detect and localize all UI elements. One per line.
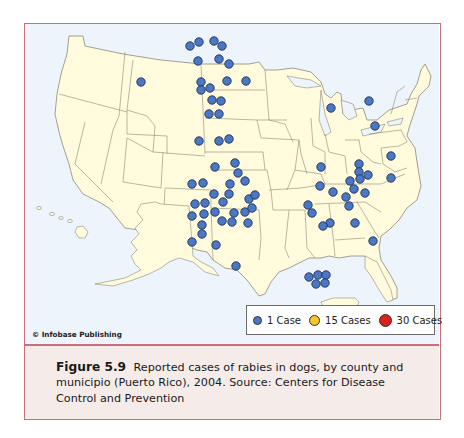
caption-area: Figure 5.9 Reported cases of rabies in d… [25,346,439,419]
case-dot [201,199,209,207]
case-dot [199,179,207,187]
case-dot [355,160,363,168]
legend-item-15-cases: 15 Cases [309,315,371,326]
case-dot [226,180,234,188]
case-dot [195,38,203,46]
case-dot [186,42,194,50]
case-dot [242,77,250,85]
case-dot [251,191,259,199]
case-dot [198,230,206,238]
case-dot [346,177,354,185]
case-dot [327,104,335,112]
case-dot [244,219,252,227]
case-dot [321,279,329,287]
case-dot [234,169,242,177]
case-dot [223,77,231,85]
case-dot [197,78,205,86]
case-dot [197,86,205,94]
case-dot [364,171,372,179]
case-dot [212,241,220,249]
case-dot [188,180,196,188]
map-legend: 1 Case 15 Cases 30 Cases [246,305,435,335]
case-dot [314,271,322,279]
hawaii-islands [37,206,88,238]
case-dot [317,163,325,171]
case-dot [195,137,203,145]
case-dot [387,152,395,160]
case-dot [194,57,202,65]
case-dot [345,202,353,210]
copyright-notice: © Infobase Publishing [32,330,122,339]
yellow-dot-icon [309,315,320,326]
case-dot [356,175,364,183]
case-dot [218,217,226,225]
case-dot [371,122,379,130]
case-dot [215,137,223,145]
case-dot [188,212,196,220]
contiguous-us-land [55,36,431,300]
case-dot [316,182,324,190]
case-dot [206,84,214,92]
blue-dot-icon [253,316,262,325]
figure-label: Figure 5.9 [56,360,126,374]
case-dot [210,37,218,45]
case-dot [319,222,327,230]
case-dot [304,201,312,209]
case-dot [200,210,208,218]
case-dot [241,177,249,185]
case-dot [305,273,313,281]
case-dot [308,209,316,217]
case-dot [329,188,337,196]
legend-item-1-case: 1 Case [253,315,301,326]
legend-label: 15 Cases [325,315,371,326]
us-map [25,24,439,344]
legend-label: 1 Case [267,315,301,326]
case-dot [215,110,223,118]
figure-frame: © Infobase Publishing 1 Case 15 Cases 30… [24,23,441,420]
case-dot [208,96,216,104]
case-dot [369,237,377,245]
case-dot [205,110,213,118]
case-dot [231,159,239,167]
case-dot [198,221,206,229]
case-dot [322,271,330,279]
case-dot [211,208,219,216]
case-dot [342,193,350,201]
case-dot [210,190,218,198]
case-dot [350,185,358,193]
case-dot [365,97,373,105]
case-dot [230,209,238,217]
case-dot [387,174,395,182]
case-dot [219,198,227,206]
red-dot-icon [379,314,392,327]
figure-caption: Figure 5.9 Reported cases of rabies in d… [56,360,416,407]
case-dot [191,200,199,208]
legend-item-30-cases: 30 Cases [379,314,443,327]
case-dot [215,55,223,63]
case-dot [188,238,196,246]
map-area: © Infobase Publishing 1 Case 15 Cases 30… [25,24,439,344]
case-dot [217,97,225,105]
case-dot [312,280,320,288]
legend-label: 30 Cases [397,315,443,326]
case-dot [228,218,236,226]
case-dot [211,163,219,171]
case-dot [351,219,359,227]
case-dot [232,262,240,270]
case-dot [137,78,145,86]
case-dot [225,135,233,143]
case-dot [361,189,369,197]
case-dot [248,204,256,212]
case-dot [225,60,233,68]
case-dot [218,42,226,50]
case-dot [225,190,233,198]
